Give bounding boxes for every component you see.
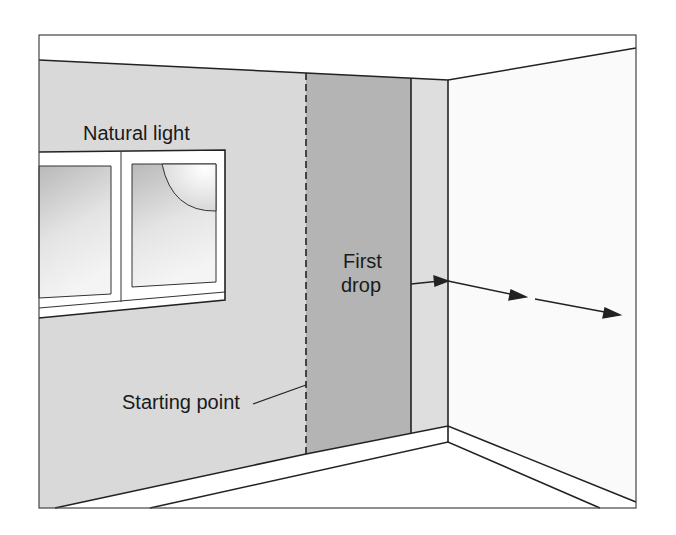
window-pane-left bbox=[39, 166, 111, 298]
starting-point-label: Starting point bbox=[122, 391, 240, 413]
natural-light-label: Natural light bbox=[83, 122, 190, 144]
window bbox=[39, 150, 225, 318]
first-drop-label-line1: First bbox=[343, 250, 382, 272]
wallpaper-hanging-diagram: Natural light First drop Starting point bbox=[0, 0, 676, 535]
unpapered-strip bbox=[411, 78, 448, 433]
right-wall bbox=[448, 48, 636, 502]
first-drop-label-line2: drop bbox=[341, 274, 381, 296]
